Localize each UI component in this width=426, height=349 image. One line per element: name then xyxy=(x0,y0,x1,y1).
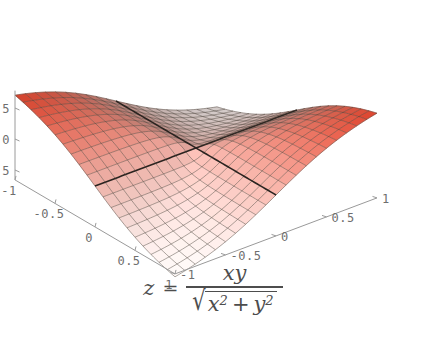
formula-numerator: xy xyxy=(215,262,255,286)
x-axis-tick-label: -0.5 xyxy=(34,207,65,221)
formula-fraction: xy √ x2 + y2 xyxy=(186,262,282,315)
z-axis-tick xyxy=(15,139,20,141)
z-axis-tick xyxy=(15,108,20,110)
radicand-x-exponent: 2 xyxy=(220,294,228,308)
radicand-x: x xyxy=(208,293,220,315)
radicand: x2 + y2 xyxy=(205,291,277,315)
surface-mesh-group xyxy=(15,92,377,277)
formula-equals: = xyxy=(160,279,180,298)
x-axis-tick-label: -1 xyxy=(1,184,16,198)
y-axis-tick-label: 1 xyxy=(382,192,390,206)
figure-page: 0.50-0.5-1-0.500.5110.50-0.5-1 z = xy √ … xyxy=(0,0,426,349)
y-axis-tick xyxy=(322,215,327,217)
formula-expression: z = xy √ x2 + y2 xyxy=(143,262,282,315)
x-axis-tick xyxy=(55,199,56,203)
y-axis-tick xyxy=(272,234,277,236)
radicand-y: y xyxy=(253,293,265,315)
y-axis-tick xyxy=(221,253,226,255)
radical-group: √ x2 + y2 xyxy=(192,291,276,315)
x-axis-tick-label: 0 xyxy=(85,231,93,245)
z-axis-tick-label: 0 xyxy=(2,133,10,147)
x-axis-tick xyxy=(135,246,136,250)
formula-denominator: √ x2 + y2 xyxy=(186,288,282,315)
y-axis-tick-label: 0 xyxy=(281,230,289,244)
z-axis-tick-label: -0.5 xyxy=(0,164,10,178)
radicand-y-exponent: 2 xyxy=(265,294,273,308)
formula-lhs: z xyxy=(143,278,154,299)
y-axis-tick xyxy=(373,196,378,198)
z-axis-tick xyxy=(15,170,20,172)
formula-caption: z = xy √ x2 + y2 xyxy=(0,262,426,315)
x-axis-tick xyxy=(95,223,96,227)
z-axis-tick-label: 0.5 xyxy=(0,102,10,116)
radical-sign-icon: √ xyxy=(192,288,205,319)
radicand-plus: + xyxy=(228,293,254,315)
y-axis-tick-label: 0.5 xyxy=(332,211,355,225)
